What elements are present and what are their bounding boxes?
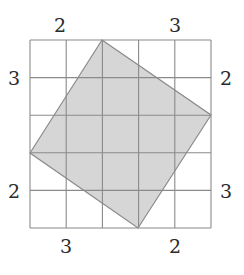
label-bottom-right: 2 <box>169 235 181 257</box>
label-right-top: 2 <box>220 67 232 89</box>
label-top-right: 3 <box>169 14 181 36</box>
label-top-left: 2 <box>54 14 66 36</box>
label-bottom-left: 3 <box>60 235 72 257</box>
label-left-bottom: 2 <box>8 180 20 202</box>
label-right-bottom: 3 <box>220 180 232 202</box>
grid-square-diagram: 2 3 3 2 2 3 3 2 <box>0 0 244 275</box>
label-left-top: 3 <box>8 67 20 89</box>
tilted-square <box>30 40 211 228</box>
